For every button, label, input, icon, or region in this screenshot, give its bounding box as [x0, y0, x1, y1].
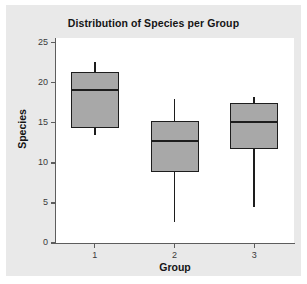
x-axis-title: Group	[55, 261, 295, 273]
box-rect	[71, 72, 119, 127]
whisker-upper	[174, 99, 176, 121]
whisker-lower	[94, 128, 96, 135]
whisker-lower	[174, 172, 176, 222]
x-axis-tick-label: 3	[234, 250, 274, 260]
median-line	[71, 89, 119, 91]
x-axis-tick-label: 2	[155, 250, 195, 260]
x-axis-tick	[94, 244, 95, 248]
x-axis-tick	[254, 244, 255, 248]
median-line	[151, 140, 199, 142]
whisker-lower	[253, 149, 255, 207]
median-line	[230, 121, 278, 123]
y-axis-tick	[51, 162, 55, 163]
y-axis-title: Species	[16, 89, 28, 169]
chart-figure: Distribution of Species per Group 051015…	[6, 5, 301, 276]
whisker-upper	[94, 62, 96, 72]
chart-title: Distribution of Species per Group	[6, 17, 301, 29]
x-axis-tick-label: 1	[75, 250, 115, 260]
y-axis-tick	[51, 42, 55, 43]
y-axis-tick-label: 25	[18, 37, 48, 47]
y-axis-line	[55, 38, 56, 243]
y-axis-tick	[51, 202, 55, 203]
y-axis-tick-label: 0	[18, 237, 48, 247]
box-rect	[230, 103, 278, 149]
y-axis-tick	[51, 82, 55, 83]
y-axis-tick-label: 20	[18, 77, 48, 87]
y-axis-tick-label: 5	[18, 197, 48, 207]
x-axis-tick	[174, 244, 175, 248]
y-axis-tick	[51, 122, 55, 123]
y-axis-tick	[51, 242, 55, 243]
box-rect	[151, 121, 199, 171]
